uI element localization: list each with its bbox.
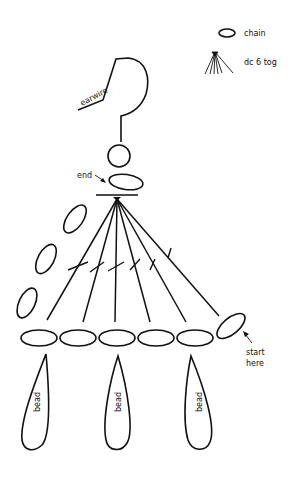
bead-2: bead: [105, 356, 130, 449]
dc-fan-icon: [205, 52, 233, 74]
dc-stitch-3: [115, 199, 117, 322]
start-arrow-icon: [243, 331, 252, 343]
start-label-2: here: [246, 359, 264, 368]
bead-3: bead: [185, 356, 212, 449]
side-chain: [13, 201, 91, 321]
legend-chain-label: chain: [244, 29, 266, 38]
legend-dc-label: dc 6 tog: [244, 58, 277, 67]
end-label: end: [77, 171, 92, 180]
dc-stitch-2: [83, 199, 117, 322]
end-chain-oval: [108, 172, 144, 192]
dc-stitches: [47, 199, 219, 322]
svg-text:bead: bead: [114, 392, 123, 412]
svg-text:bead: bead: [33, 392, 42, 412]
dc-stitch-1: [47, 199, 117, 320]
svg-text:bead: bead: [195, 392, 204, 412]
start-label: start: [246, 348, 265, 357]
bottom-chain: [21, 330, 213, 346]
end-arrow-icon: [95, 175, 106, 183]
crochet-earring-diagram: chain dc 6 tog earwire end: [0, 0, 298, 486]
chain-oval-icon: [219, 29, 235, 37]
dc-stitch-5: [117, 199, 186, 322]
bead-1: bead: [22, 354, 49, 450]
legend: chain dc 6 tog: [205, 29, 277, 74]
ring-circle: [108, 145, 130, 167]
